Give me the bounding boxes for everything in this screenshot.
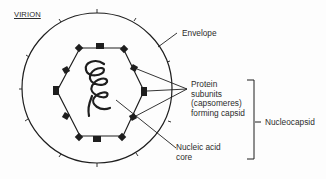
label-nucleic-acid-core: Nucleic acid core — [176, 143, 221, 162]
nucleocapsid-bracket — [247, 80, 261, 159]
label-nucleocapsid: Nucleocapsid — [265, 118, 315, 128]
diagram-title: VIRION — [14, 10, 41, 19]
label-protein-subunits: Protein subunits (capsomeres) forming ca… — [191, 80, 245, 118]
virion-structure-drawing — [0, 0, 326, 179]
virion-diagram: VIRION Envelope Protein subunits (capsom… — [0, 0, 326, 179]
label-envelope: Envelope — [182, 29, 217, 39]
nucleic-acid-helix — [86, 61, 110, 116]
envelope — [19, 9, 172, 167]
